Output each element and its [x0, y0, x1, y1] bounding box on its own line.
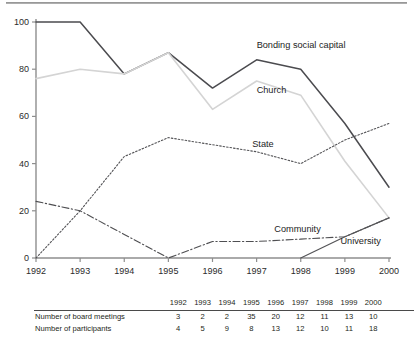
- y-tick-label: 80: [19, 64, 29, 74]
- table-col-2000: 2000: [361, 296, 385, 310]
- x-tick-label: 1999: [335, 266, 355, 276]
- series-line-community: [36, 201, 389, 258]
- chart-plot-svg: 0204060801001992199319941995199619971998…: [0, 8, 413, 283]
- table-corner-cell: [34, 296, 166, 310]
- summary-table: 1992 1993 1994 1995 1996 1997 1998 1999 …: [34, 296, 414, 335]
- series-label-church: Church: [257, 85, 287, 95]
- cell: 35: [239, 310, 263, 323]
- table-col-1995: 1995: [239, 296, 263, 310]
- x-tick-label: 1993: [70, 266, 90, 276]
- cell: 20: [264, 310, 288, 323]
- cell: 11: [337, 323, 361, 335]
- table-row: Number of participants 4 5 9 8 13 12 10 …: [34, 323, 414, 335]
- table-col-1999: 1999: [337, 296, 361, 310]
- table-col-pad: [386, 296, 414, 310]
- series-label-university: University: [340, 236, 381, 246]
- x-tick-label: 1996: [202, 266, 222, 276]
- cell: 8: [239, 323, 263, 335]
- cell: 18: [361, 323, 385, 335]
- x-tick-label: 1994: [114, 266, 134, 276]
- cell: 5: [190, 323, 214, 335]
- row-label-participants: Number of participants: [34, 323, 166, 335]
- cell-pad: [386, 310, 414, 323]
- table-header-row: 1992 1993 1994 1995 1996 1997 1998 1999 …: [34, 296, 414, 310]
- x-tick-label: 1998: [291, 266, 311, 276]
- table-body: Number of board meetings 3 2 2 35 20 12 …: [34, 310, 414, 335]
- cell: 2: [215, 310, 239, 323]
- y-tick-label: 40: [19, 159, 29, 169]
- x-tick-label: 1997: [247, 266, 267, 276]
- series-line-church: [36, 53, 389, 218]
- y-tick-label: 60: [19, 111, 29, 121]
- x-tick-label: 1995: [158, 266, 178, 276]
- y-tick-label: 100: [14, 17, 29, 27]
- cell: 3: [166, 310, 190, 323]
- cell: 12: [288, 310, 312, 323]
- table-col-1997: 1997: [288, 296, 312, 310]
- y-tick-label: 0: [24, 253, 29, 263]
- table-col-1998: 1998: [312, 296, 336, 310]
- row-label-board-meetings: Number of board meetings: [34, 310, 166, 323]
- line-chart: 0204060801001992199319941995199619971998…: [0, 8, 413, 283]
- series-label-bonding-social-capital: Bonding social capital: [257, 40, 346, 50]
- table-col-1993: 1993: [190, 296, 214, 310]
- cell: 10: [312, 323, 336, 335]
- cell: 2: [190, 310, 214, 323]
- series-line-state: [36, 123, 389, 258]
- x-tick-label: 2000: [379, 266, 399, 276]
- cell: 13: [264, 323, 288, 335]
- cell: 9: [215, 323, 239, 335]
- cell: 11: [312, 310, 336, 323]
- table-col-1992: 1992: [166, 296, 190, 310]
- data-table-wrapper: 1992 1993 1994 1995 1996 1997 1998 1999 …: [34, 296, 386, 335]
- y-tick-label: 20: [19, 206, 29, 216]
- cell: 4: [166, 323, 190, 335]
- cell: 13: [337, 310, 361, 323]
- cell: 10: [361, 310, 385, 323]
- top-divider-rule: [6, 2, 407, 4]
- series-label-community: Community: [274, 224, 321, 234]
- x-tick-label: 1992: [26, 266, 46, 276]
- table-row: Number of board meetings 3 2 2 35 20 12 …: [34, 310, 414, 323]
- series-label-state: State: [252, 139, 273, 149]
- table-col-1996: 1996: [264, 296, 288, 310]
- cell-pad: [386, 323, 414, 335]
- cell: 12: [288, 323, 312, 335]
- table-head: 1992 1993 1994 1995 1996 1997 1998 1999 …: [34, 296, 414, 310]
- table-col-1994: 1994: [215, 296, 239, 310]
